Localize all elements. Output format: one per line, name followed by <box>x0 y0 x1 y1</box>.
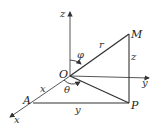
y-axis <box>70 76 149 78</box>
phi-label: φ <box>77 49 84 60</box>
y-axis-label: y <box>141 77 148 88</box>
z-axis-label: z <box>59 8 66 19</box>
segment-x-label: x <box>40 83 46 94</box>
theta-label: θ <box>64 84 70 95</box>
phi-arc <box>70 60 81 64</box>
point-a-label: A <box>22 94 31 107</box>
segment-y-label: y <box>74 104 81 115</box>
point-m-label: M <box>130 28 143 41</box>
spherical-coordinates-diagram: z y x O M P A r z x y φ θ <box>0 0 160 139</box>
segment-z-label: z <box>130 51 137 62</box>
point-p-label: P <box>130 99 139 112</box>
origin-label: O <box>59 68 68 81</box>
segment-r-label: r <box>99 39 105 50</box>
segment-op <box>70 76 129 103</box>
x-axis-label: x <box>14 114 20 125</box>
